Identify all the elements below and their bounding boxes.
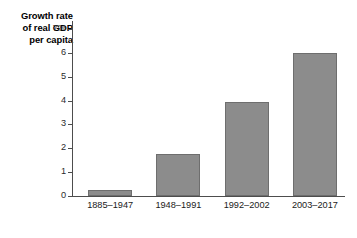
bar [225, 102, 269, 196]
y-tick-mark [68, 172, 72, 173]
bar [293, 53, 337, 196]
y-tick-mark [68, 196, 72, 197]
axis-title-line-3: per capita [8, 34, 73, 46]
y-tick-mark [68, 53, 72, 54]
x-category-label: 1885–1947 [87, 201, 133, 210]
y-tick-mark [68, 29, 72, 30]
y-tick-label: 4 [61, 96, 66, 105]
x-axis-line [72, 196, 345, 197]
axis-title-line-1: Growth rate [8, 10, 73, 22]
bar [156, 154, 200, 196]
bar [88, 190, 132, 196]
x-category-label: 1948–1991 [155, 201, 201, 210]
y-tick-label: 1 [61, 168, 66, 177]
x-category-label: 2003–2017 [292, 201, 338, 210]
y-tick-label: 3 [61, 120, 66, 129]
y-tick-label: 7% [53, 24, 66, 33]
bar-chart-figure: Growth rate of real GDP per capita 01234… [0, 0, 357, 238]
plot-area: 01234567% 1885–19471948–19911992–2002200… [72, 21, 345, 197]
y-tick-label: 5 [61, 72, 66, 81]
y-tick-label: 2 [61, 144, 66, 153]
y-tick-label: 6 [61, 48, 66, 57]
y-tick-label: 0 [61, 191, 66, 200]
y-axis-line [72, 21, 73, 197]
y-tick-mark [68, 101, 72, 102]
y-tick-mark [68, 77, 72, 78]
y-tick-mark [68, 124, 72, 125]
y-tick-mark [68, 148, 72, 149]
x-category-label: 1992–2002 [224, 201, 270, 210]
